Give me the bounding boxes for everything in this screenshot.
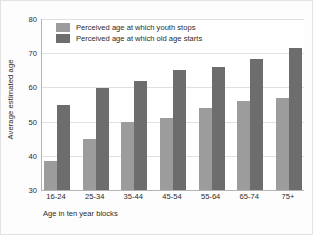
bar-youth-stops[interactable] — [199, 108, 212, 190]
y-axis-tick: 80 — [29, 15, 37, 24]
x-axis-tick: 45-54 — [159, 192, 185, 206]
x-axis-tick: 25-34 — [82, 192, 108, 206]
y-axis-tick: 30 — [29, 186, 37, 195]
y-axis-tick: 50 — [29, 117, 37, 126]
y-axis-tick: 40 — [29, 151, 37, 160]
bar-group — [276, 19, 302, 190]
bar-old-age-starts[interactable] — [57, 105, 70, 191]
legend-item: Perceived age at which youth stops — [56, 23, 202, 32]
bar-old-age-starts[interactable] — [212, 67, 225, 190]
y-axis-tick: 60 — [29, 83, 37, 92]
y-axis-tick: 70 — [29, 49, 37, 58]
bar-old-age-starts[interactable] — [173, 70, 186, 190]
bar-youth-stops[interactable] — [83, 139, 96, 190]
bar-group — [237, 19, 263, 190]
chart-legend: Perceived age at which youth stopsPercei… — [56, 23, 202, 45]
bar-old-age-starts[interactable] — [289, 48, 302, 190]
y-axis-title-label: Average estimated age — [6, 59, 15, 139]
bar-group — [199, 19, 225, 190]
legend-label: Perceived age at which old age starts — [76, 34, 202, 43]
x-axis-tick: 55-64 — [198, 192, 224, 206]
chart-figure: Average estimated age 807060504030 Perce… — [0, 0, 313, 235]
bar-youth-stops[interactable] — [160, 118, 173, 190]
legend-item: Perceived age at which old age starts — [56, 34, 202, 43]
x-axis-tick: 65-74 — [236, 192, 262, 206]
legend-label: Perceived age at which youth stops — [76, 23, 195, 32]
bar-old-age-starts[interactable] — [250, 59, 263, 190]
x-axis-tick: 75+ — [275, 192, 301, 206]
legend-swatch — [56, 34, 70, 43]
x-axis-title: Age in ten year blocks — [43, 209, 118, 218]
legend-swatch — [56, 23, 70, 32]
x-axis-tick-labels: 16-2425-3435-4445-5455-6465-7475+ — [41, 192, 303, 206]
x-axis-tick: 35-44 — [120, 192, 146, 206]
bar-youth-stops[interactable] — [44, 161, 57, 190]
bar-youth-stops[interactable] — [276, 98, 289, 190]
y-axis-title: Average estimated age — [3, 1, 17, 197]
bar-youth-stops[interactable] — [121, 122, 134, 190]
y-axis-tick-labels: 807060504030 — [17, 1, 39, 197]
bar-old-age-starts[interactable] — [96, 88, 109, 190]
bar-old-age-starts[interactable] — [134, 81, 147, 190]
x-axis-tick: 16-24 — [43, 192, 69, 206]
bar-youth-stops[interactable] — [237, 101, 250, 190]
